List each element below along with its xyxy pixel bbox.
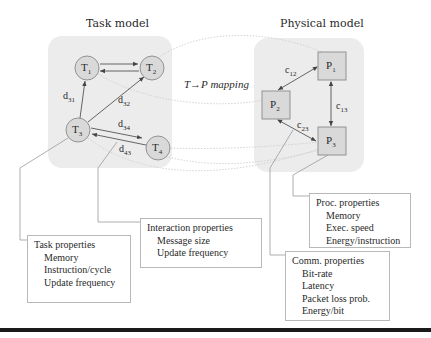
- edge-label-d31: d31: [63, 90, 75, 104]
- edge-label-c23: c23: [297, 119, 308, 133]
- edge-label-d32: d32: [118, 94, 130, 108]
- comm-property-item: Bit-rate: [292, 268, 383, 281]
- node-t2: T2: [146, 61, 156, 76]
- task-property-item: Memory: [34, 252, 124, 265]
- mapping-label: T→P mapping: [184, 78, 249, 90]
- proc-property-item: Memory: [316, 210, 404, 223]
- proc-properties-box: Proc. properties Memory Exec. speed Ener…: [309, 193, 411, 248]
- comm-property-item: Latency: [292, 280, 383, 293]
- interaction-property-item: Update frequency: [147, 247, 255, 260]
- edge-label-c12: c12: [285, 64, 296, 78]
- proc-properties-title: Proc. properties: [316, 197, 404, 210]
- comm-properties-box: Comm. properties Bit-rate Latency Packet…: [285, 251, 390, 321]
- proc-property-item: Energy/instruction: [316, 235, 404, 248]
- edge-label-d43: d43: [119, 143, 131, 157]
- node-p3: P3: [326, 134, 336, 149]
- proc-property-item: Exec. speed: [316, 222, 404, 235]
- bottom-rule: [0, 328, 431, 332]
- task-properties-box: Task properties Memory Instruction/cycle…: [27, 235, 131, 303]
- node-t4: T4: [152, 141, 162, 156]
- comm-property-item: Energy/bit: [292, 305, 383, 318]
- node-t3: T3: [72, 123, 82, 138]
- edge-label-d34: d34: [118, 118, 130, 132]
- task-property-item: Instruction/cycle: [34, 264, 124, 277]
- interaction-properties-box: Interaction properties Message size Upda…: [140, 218, 262, 268]
- task-properties-title: Task properties: [34, 239, 124, 252]
- node-t1: T1: [81, 61, 91, 76]
- node-p2: P2: [270, 98, 280, 113]
- task-property-item: Update frequency: [34, 277, 124, 290]
- interaction-properties-title: Interaction properties: [147, 222, 255, 235]
- edge-label-c13: c13: [336, 100, 347, 114]
- comm-property-item: Packet loss prob.: [292, 293, 383, 306]
- node-p1: P1: [326, 59, 336, 74]
- comm-properties-title: Comm. properties: [292, 255, 383, 268]
- interaction-property-item: Message size: [147, 235, 255, 248]
